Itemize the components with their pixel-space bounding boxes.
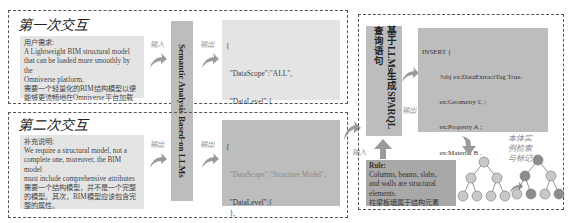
json-line: {	[226, 42, 298, 51]
ontology-tree-marked	[510, 154, 566, 204]
round1-title: 第一次交互	[18, 14, 88, 34]
rule-heading: Rule:	[369, 162, 453, 171]
code-line: INSERT {	[422, 48, 522, 56]
sparql-query-box: INSERT { ?obj ex:DataExtractTag True. ex…	[418, 28, 548, 132]
round1-output-label: 输出	[200, 38, 214, 49]
round1-input-label: 输入	[150, 38, 164, 49]
json-line: "DataLevel":{	[226, 97, 298, 106]
code-line: ex:Geometry C ;	[422, 98, 522, 106]
up-arrow-icon	[372, 138, 394, 160]
round1-line: 能够更流畅地在Omniverse平台加载	[24, 94, 140, 103]
round1-request-box: 用户需求: A Lightweight BIM structural model…	[20, 36, 144, 98]
curved-arrow-icon	[148, 52, 168, 70]
round2-line: We require a structural model, not a	[24, 147, 140, 156]
sparql-output-label: 输出	[402, 104, 416, 115]
round1-line: Omniverse platform.	[24, 76, 140, 85]
down-arrow-icon	[460, 134, 478, 156]
code-line: ex:Property A ;	[422, 123, 522, 131]
ontology-label-line: 本体实	[508, 134, 532, 144]
rule-line: and walls are structural	[369, 180, 453, 189]
curved-arrow-icon	[200, 152, 220, 170]
code-line: ?obj ex:DataExtractTag True.	[422, 73, 522, 81]
rule-line: elements.	[369, 190, 453, 199]
round2-heading: 补充说明:	[24, 138, 140, 147]
rule-line: 柱梁板墙属于结构元素	[369, 199, 453, 208]
round2-json: { "DataScope":"Structure Model", "DataLe…	[226, 124, 326, 223]
round1-json-box: { "DataScope":"ALL", "DataLevel":{ "Geom…	[222, 20, 340, 100]
round1-heading: 用户需求:	[24, 39, 140, 48]
json-line-highlight: "DataScope":"Structure Model",	[226, 170, 326, 179]
json-line: {	[226, 143, 326, 152]
round2-line: 整的属性。	[24, 202, 140, 211]
rule-line: Columns, beams, slabs,	[369, 171, 453, 180]
json-line: "DataLevel":{	[226, 198, 326, 207]
round2-line: must include comprehensive attributes	[24, 175, 140, 184]
round1-line: A Lightweight BIM structural model	[24, 48, 140, 57]
curved-arrow-icon	[400, 66, 420, 84]
ontology-tree-unmarked	[456, 156, 512, 206]
round1-line: that can be loaded more smoothly by the	[24, 57, 140, 75]
round2-json-box: { "DataScope":"Structure Model", "DataLe…	[222, 120, 340, 206]
rule-box: Rule: Columns, beams, slabs, and walls a…	[366, 160, 456, 206]
round2-output-label: 输出	[200, 138, 214, 149]
round2-line: complete one, moreover, the BIM model	[24, 156, 140, 174]
round1-line: 需要一个轻量化的BIM结构模型以便	[24, 85, 140, 94]
ontology-label-line: 例检索	[508, 144, 532, 154]
round2-output-label-left: 输出	[150, 138, 164, 149]
sparql-generation-label: 基于LLMs生成SPARQL查询语句	[371, 26, 397, 136]
round2-supplement-box: 补充说明: We require a structural model, not…	[20, 135, 144, 209]
curved-arrow-icon	[148, 152, 168, 170]
json-line: "DataScope":"ALL",	[226, 69, 298, 78]
curved-arrow-icon	[200, 52, 220, 70]
sparql-generation-block: 基于LLMs生成SPARQL查询语句	[366, 26, 402, 136]
round2-line: 需要一个结构模型，并不是一个完整	[24, 184, 140, 193]
round2-title: 第二次交互	[18, 114, 88, 134]
